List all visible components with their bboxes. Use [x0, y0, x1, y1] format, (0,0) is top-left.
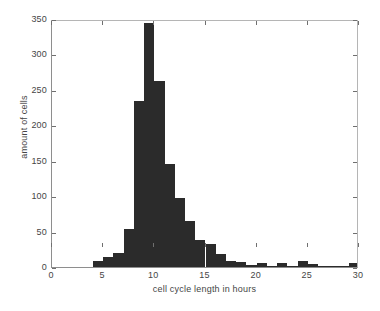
x-axis-title: cell cycle length in hours — [51, 284, 358, 294]
y-tick-mark-right — [353, 233, 357, 234]
x-tick-mark-top — [256, 21, 257, 25]
y-tick-mark — [52, 197, 56, 198]
histogram-bar — [134, 101, 144, 268]
y-tick-label: 350 — [17, 14, 47, 24]
histogram-bar — [113, 253, 123, 267]
histogram-bar — [216, 254, 226, 267]
x-tick-mark — [358, 243, 359, 247]
histogram-bar — [257, 263, 267, 267]
y-tick-mark-right — [353, 91, 357, 92]
histogram-bar — [124, 229, 134, 267]
y-tick-mark — [52, 20, 56, 21]
y-tick-mark-right — [353, 268, 357, 269]
y-tick-mark-right — [353, 20, 357, 21]
x-tick-mark-top — [205, 21, 206, 25]
y-tick-mark — [52, 91, 56, 92]
histogram-bar — [328, 266, 338, 267]
x-tick-mark — [205, 243, 206, 247]
y-tick-label: 0 — [17, 262, 47, 272]
x-tick-mark-top — [102, 21, 103, 25]
histogram-bar — [165, 164, 175, 267]
y-tick-mark-right — [353, 126, 357, 127]
histogram-bar — [154, 81, 164, 267]
histogram-bar — [226, 261, 236, 267]
x-tick-mark — [153, 243, 154, 247]
x-tick-mark — [51, 243, 52, 247]
x-tick-label: 5 — [87, 270, 117, 280]
y-tick-mark-right — [353, 197, 357, 198]
histogram-bar — [308, 264, 318, 267]
x-tick-mark-top — [153, 21, 154, 25]
histogram-bars — [52, 21, 357, 267]
histogram-bar — [349, 263, 358, 267]
histogram-bar — [246, 265, 256, 267]
x-tick-mark — [307, 243, 308, 247]
histogram-bar — [93, 261, 103, 267]
histogram-bar — [339, 266, 349, 267]
x-tick-mark-top — [51, 21, 52, 25]
y-tick-mark-right — [353, 162, 357, 163]
x-tick-mark — [102, 243, 103, 247]
histogram-bar — [277, 263, 287, 267]
y-tick-mark — [52, 233, 56, 234]
y-tick-mark — [52, 268, 56, 269]
histogram-bar — [175, 198, 185, 267]
histogram-bar — [287, 266, 297, 267]
histogram-bar — [185, 221, 195, 267]
histogram-bar — [103, 257, 113, 267]
plot-area — [51, 20, 358, 268]
y-tick-mark-right — [353, 55, 357, 56]
x-tick-mark-top — [307, 21, 308, 25]
y-tick-mark — [52, 126, 56, 127]
y-tick-mark — [52, 162, 56, 163]
x-tick-mark-top — [358, 21, 359, 25]
x-tick-label: 25 — [292, 270, 322, 280]
figure-canvas: 051015202530 050100150200250300350 cell … — [0, 0, 380, 311]
x-tick-mark — [256, 243, 257, 247]
histogram-bar — [144, 23, 154, 267]
x-tick-label: 15 — [190, 270, 220, 280]
y-tick-label: 50 — [17, 227, 47, 237]
histogram-bar — [206, 244, 216, 267]
x-tick-label: 10 — [138, 270, 168, 280]
histogram-bar — [267, 266, 277, 267]
y-axis-title: amount of cells — [19, 57, 29, 197]
histogram-bar — [236, 262, 246, 267]
x-tick-label: 20 — [241, 270, 271, 280]
histogram-bar — [318, 266, 328, 267]
histogram-bar — [298, 261, 308, 267]
x-tick-label: 30 — [343, 270, 373, 280]
y-tick-mark — [52, 55, 56, 56]
